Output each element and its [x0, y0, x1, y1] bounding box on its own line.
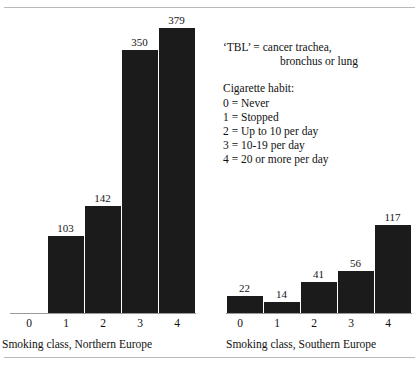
bar [122, 50, 158, 313]
bar-value-label: 103 [47, 222, 84, 234]
x-tick-label: 0 [17, 317, 41, 329]
x-tick-label: 3 [128, 317, 152, 329]
legend-habit-item: 3 = 10-19 per day [223, 138, 415, 152]
bar-value-label: 350 [121, 36, 158, 48]
x-tick-label: 3 [339, 317, 363, 329]
bar [338, 271, 374, 313]
bar [159, 28, 195, 313]
footer-rule [4, 357, 415, 358]
bar [264, 302, 300, 313]
axis-title-southern-europe: Smoking class, Southern Europe [226, 338, 376, 350]
x-tick-label: 4 [376, 317, 400, 329]
x-tick-label: 2 [302, 317, 326, 329]
bar-value-label: 14 [263, 288, 300, 300]
x-axis-line-southern-europe [226, 313, 412, 314]
legend-tbl-line-1: ‘TBL’ = cancer trachea, [223, 40, 415, 54]
legend-notes: ‘TBL’ = cancer trachea, bronchus or lung… [223, 40, 415, 167]
bar-value-label: 41 [300, 268, 337, 280]
legend-habit-list: 0 = Never1 = Stopped2 = Up to 10 per day… [223, 96, 415, 167]
plot-area-northern-europe: 103142350379 [10, 14, 198, 313]
legend-habit-item: 1 = Stopped [223, 110, 415, 124]
bar-value-label: 142 [84, 192, 121, 204]
bar-value-label: 22 [226, 282, 263, 294]
x-axis-ticks-southern-europe: 01234 [226, 317, 412, 335]
legend-habit-title: Cigarette habit: [223, 81, 415, 95]
bar [48, 236, 84, 313]
header-rule [4, 7, 415, 8]
x-tick-label: 1 [54, 317, 78, 329]
bar-value-label: 117 [374, 211, 411, 223]
legend-habit-item: 2 = Up to 10 per day [223, 124, 415, 138]
x-axis-line-northern-europe [10, 313, 196, 314]
x-tick-label: 1 [265, 317, 289, 329]
bar-group-northern-europe: 103142350379 [10, 14, 196, 313]
x-tick-label: 0 [228, 317, 252, 329]
chart-panel-northern-europe: 103142350379 01234 Smoking class, Northe… [10, 14, 198, 314]
bar [301, 282, 337, 313]
legend-tbl-line-2: bronchus or lung [223, 54, 415, 68]
legend-habit-item: 0 = Never [223, 96, 415, 110]
bar [85, 206, 121, 313]
bar-value-label: 56 [337, 257, 374, 269]
bar [227, 296, 263, 313]
bar-value-label: 379 [158, 14, 195, 26]
figure: 103142350379 01234 Smoking class, Northe… [0, 0, 419, 367]
bar [375, 225, 411, 313]
x-tick-label: 2 [91, 317, 115, 329]
x-tick-label: 4 [165, 317, 189, 329]
cropped-header-text [6, 0, 413, 2]
axis-title-northern-europe: Smoking class, Northern Europe [2, 338, 152, 350]
legend-habit-item: 4 = 20 or more per day [223, 152, 415, 166]
x-axis-ticks-northern-europe: 01234 [10, 317, 196, 335]
